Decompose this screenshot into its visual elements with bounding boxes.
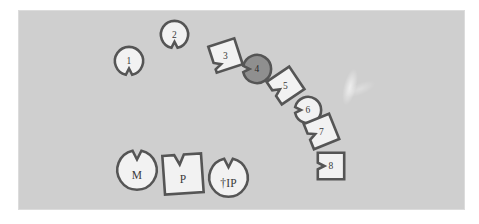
shape-8: 8	[316, 151, 346, 181]
shape-ip: †IP	[208, 157, 249, 198]
shape-2: 2	[160, 20, 189, 49]
shape-p: P	[160, 151, 207, 198]
shape-m: M	[116, 149, 158, 191]
shape-p-glyph	[160, 151, 207, 198]
shape-8-glyph	[316, 151, 346, 181]
shape-1: 1	[114, 46, 144, 76]
shape-2-glyph	[160, 20, 189, 49]
figure-canvas: 12345678MP†IP	[0, 0, 479, 224]
shape-1-glyph	[114, 46, 144, 76]
shape-m-glyph	[116, 149, 158, 191]
shape-ip-glyph	[208, 157, 249, 198]
